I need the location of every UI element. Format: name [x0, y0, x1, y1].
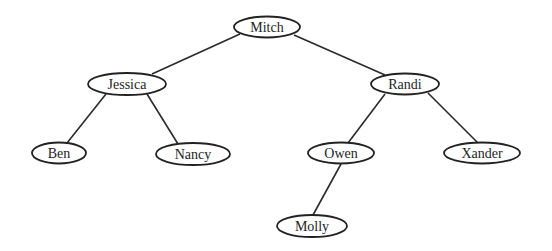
tree-node-xander: Xander: [444, 143, 520, 164]
node-label: Mitch: [250, 20, 283, 35]
edge-mitch-jessica: [152, 34, 240, 74]
edge-jessica-ben: [67, 94, 106, 143]
edges-layer: [67, 34, 478, 215]
node-label: Owen: [324, 146, 357, 161]
tree-node-owen: Owen: [308, 143, 374, 164]
tree-diagram: MitchJessicaRandiBenNancyOwenXanderMolly: [0, 0, 552, 251]
tree-node-nancy: Nancy: [156, 143, 230, 165]
edge-jessica-nancy: [147, 94, 178, 144]
edge-randi-owen: [348, 94, 385, 143]
node-label: Molly: [295, 219, 329, 234]
edge-randi-xander: [428, 93, 478, 143]
node-label: Ben: [48, 146, 71, 161]
tree-node-mitch: Mitch: [234, 17, 300, 38]
tree-node-molly: Molly: [277, 215, 347, 237]
node-label: Randi: [388, 77, 422, 92]
tree-node-jessica: Jessica: [88, 73, 166, 95]
edge-owen-molly: [313, 164, 341, 215]
tree-node-ben: Ben: [32, 143, 86, 164]
node-label: Jessica: [108, 77, 148, 92]
tree-node-randi: Randi: [371, 74, 439, 95]
node-label: Nancy: [175, 147, 212, 162]
nodes-layer: MitchJessicaRandiBenNancyOwenXanderMolly: [32, 17, 520, 238]
edge-mitch-randi: [294, 35, 385, 75]
node-label: Xander: [461, 146, 503, 161]
